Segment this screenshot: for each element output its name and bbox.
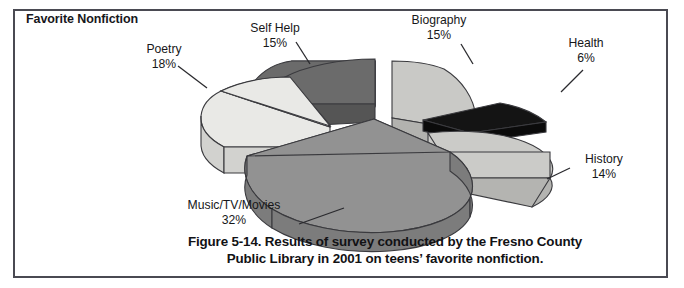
leader-line-biography [461,44,473,64]
label-music-tv-movies-name: Music/TV/Movies [188,198,281,212]
label-music-tv-movies: Music/TV/Movies 32% [172,198,296,227]
label-history-pct: 14% [573,167,635,182]
label-self-help-pct: 15% [238,36,312,51]
label-history-name: History [585,152,623,166]
label-history: History 14% [573,152,635,181]
figure-caption-line-1: Figure 5-14. Results of survey conducted… [150,234,620,251]
label-music-tv-movies-pct: 32% [172,213,296,228]
figure-caption: Figure 5-14. Results of survey conducted… [150,234,620,267]
figure-container: Favorite Nonfiction [0,0,684,288]
label-self-help: Self Help 15% [238,21,312,50]
label-poetry-pct: 18% [128,57,200,72]
figure-caption-line-2: Public Library in 2001 on teens’ favorit… [150,251,620,268]
label-health-name: Health [568,36,603,50]
label-poetry-name: Poetry [146,42,181,56]
leader-line-health [561,70,583,92]
label-poetry: Poetry 18% [128,42,200,71]
label-self-help-name: Self Help [250,21,299,35]
label-health: Health 6% [556,36,616,65]
label-biography-pct: 15% [396,28,482,43]
label-biography-name: Biography [412,13,467,27]
label-biography: Biography 15% [396,13,482,42]
label-health-pct: 6% [556,51,616,66]
